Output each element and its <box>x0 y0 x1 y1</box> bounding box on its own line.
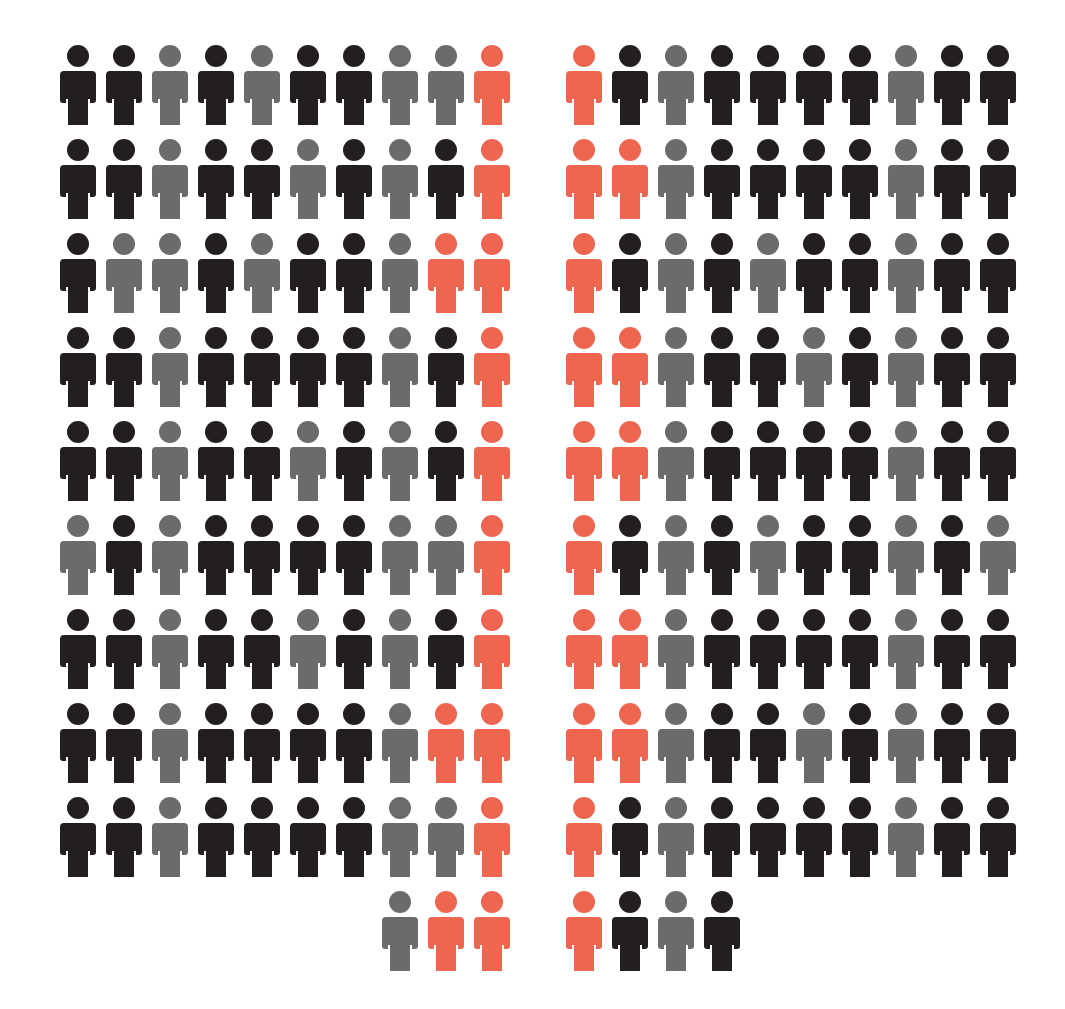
person-icon-black <box>290 45 326 125</box>
person-icon-red <box>612 703 648 783</box>
person-icon-black <box>750 45 786 125</box>
person-icon-black <box>980 139 1016 219</box>
person-icon-black <box>336 45 372 125</box>
person-icon-black <box>980 609 1016 689</box>
person-icon-black <box>106 609 142 689</box>
pictogram-row <box>60 139 520 233</box>
person-icon-gray <box>152 797 188 877</box>
pictogram-row <box>60 45 520 139</box>
person-icon-black <box>750 797 786 877</box>
person-icon-black <box>842 703 878 783</box>
person-icon-red <box>474 797 510 877</box>
person-icon-black <box>704 327 740 407</box>
person-icon-black <box>934 515 970 595</box>
person-icon-black <box>198 233 234 313</box>
person-icon-gray <box>290 139 326 219</box>
person-icon-gray <box>980 515 1016 595</box>
person-icon-black <box>336 139 372 219</box>
person-icon-red <box>474 327 510 407</box>
person-icon-gray <box>796 327 832 407</box>
person-icon-black <box>428 327 464 407</box>
person-icon-black <box>198 45 234 125</box>
pictogram-row <box>60 797 520 891</box>
person-icon-gray <box>658 327 694 407</box>
pictogram-row <box>566 45 1026 139</box>
person-icon-black <box>842 233 878 313</box>
person-icon-black <box>198 515 234 595</box>
person-icon-black <box>934 421 970 501</box>
person-icon-black <box>106 421 142 501</box>
person-icon-black <box>612 797 648 877</box>
person-icon-black <box>796 609 832 689</box>
person-icon-gray <box>658 609 694 689</box>
person-icon-gray <box>382 421 418 501</box>
person-icon-black <box>934 45 970 125</box>
person-icon-gray <box>382 327 418 407</box>
person-icon-gray <box>658 139 694 219</box>
person-icon-black <box>934 703 970 783</box>
person-icon-black <box>704 609 740 689</box>
person-icon-black <box>244 327 280 407</box>
person-icon-black <box>290 233 326 313</box>
person-icon-gray <box>290 609 326 689</box>
person-icon-gray <box>244 45 280 125</box>
pictogram-row <box>566 233 1026 327</box>
person-icon-gray <box>290 421 326 501</box>
person-icon-red <box>474 515 510 595</box>
person-icon-black <box>244 797 280 877</box>
person-icon-black <box>244 139 280 219</box>
person-icon-red <box>474 609 510 689</box>
person-icon-gray <box>428 45 464 125</box>
person-icon-red <box>566 327 602 407</box>
person-icon-gray <box>658 515 694 595</box>
person-icon-black <box>244 609 280 689</box>
person-icon-black <box>244 703 280 783</box>
person-icon-black <box>934 233 970 313</box>
person-icon-gray <box>750 515 786 595</box>
person-icon-black <box>842 139 878 219</box>
person-icon-gray <box>888 139 924 219</box>
pictogram-row <box>566 891 1026 985</box>
person-icon-red <box>566 139 602 219</box>
person-icon-black <box>290 703 326 783</box>
person-icon-red <box>474 421 510 501</box>
person-icon-red <box>612 139 648 219</box>
person-icon-red <box>474 703 510 783</box>
person-icon-gray <box>888 515 924 595</box>
person-icon-black <box>750 421 786 501</box>
person-icon-black <box>704 421 740 501</box>
person-icon-black <box>336 703 372 783</box>
person-icon-black <box>704 233 740 313</box>
person-icon-red <box>474 891 510 971</box>
person-icon-black <box>198 421 234 501</box>
pictogram-row <box>60 421 520 515</box>
person-icon-gray <box>382 139 418 219</box>
person-icon-black <box>934 139 970 219</box>
person-icon-black <box>60 327 96 407</box>
person-icon-red <box>566 515 602 595</box>
person-icon-black <box>842 45 878 125</box>
person-icon-gray <box>382 515 418 595</box>
left-pictogram-block <box>60 45 520 985</box>
pictogram-row <box>60 609 520 703</box>
person-icon-gray <box>750 233 786 313</box>
person-icon-red <box>566 703 602 783</box>
person-icon-black <box>106 515 142 595</box>
person-icon-black <box>106 45 142 125</box>
person-icon-black <box>428 421 464 501</box>
person-icon-gray <box>888 703 924 783</box>
person-icon-gray <box>658 797 694 877</box>
person-icon-black <box>198 703 234 783</box>
person-icon-gray <box>888 609 924 689</box>
person-icon-gray <box>658 45 694 125</box>
person-icon-black <box>796 515 832 595</box>
person-icon-gray <box>382 233 418 313</box>
person-icon-black <box>60 139 96 219</box>
person-icon-black <box>796 139 832 219</box>
person-icon-gray <box>152 139 188 219</box>
person-icon-red <box>566 891 602 971</box>
person-icon-gray <box>658 703 694 783</box>
person-icon-black <box>704 703 740 783</box>
person-icon-black <box>290 797 326 877</box>
person-icon-black <box>336 515 372 595</box>
